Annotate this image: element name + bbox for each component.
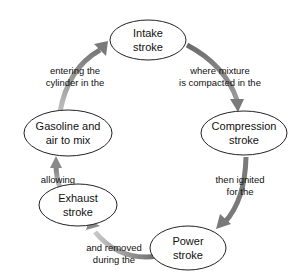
- svg-text:during the: during the: [93, 254, 135, 265]
- svg-text:Gasoline and: Gasoline and: [36, 120, 101, 132]
- svg-text:is compacted in the: is compacted in the: [179, 77, 261, 88]
- svg-text:Power: Power: [172, 235, 204, 247]
- svg-text:Exhaust: Exhaust: [58, 192, 98, 204]
- node-intake-stroke: Intake stroke: [110, 20, 186, 60]
- svg-text:stroke: stroke: [133, 41, 163, 53]
- node-exhaust-stroke: Exhaust stroke: [39, 184, 117, 226]
- node-power-stroke: Power stroke: [150, 226, 226, 270]
- svg-text:and removed: and removed: [86, 242, 141, 253]
- svg-text:allowing: allowing: [41, 174, 75, 185]
- edge-label-exhaust-gasoline: allowing: [41, 174, 75, 185]
- node-compression-stroke: Compression stroke: [201, 111, 287, 155]
- svg-text:stroke: stroke: [229, 134, 259, 146]
- svg-text:where mixture: where mixture: [189, 65, 250, 76]
- svg-text:Intake: Intake: [133, 27, 163, 39]
- svg-text:stroke: stroke: [63, 206, 93, 218]
- edge-label-gasoline-intake: entering the cylinder in the: [46, 65, 105, 88]
- edge-label-compression-power: then ignited for the: [215, 174, 264, 197]
- svg-text:cylinder in the: cylinder in the: [46, 77, 105, 88]
- svg-text:then ignited: then ignited: [215, 174, 264, 185]
- svg-text:Compression: Compression: [212, 120, 277, 132]
- edge-label-power-exhaust: and removed during the: [86, 242, 141, 265]
- svg-text:entering the: entering the: [50, 65, 100, 76]
- node-gasoline-air-mix: Gasoline and air to mix: [24, 110, 112, 156]
- svg-text:for the: for the: [227, 186, 254, 197]
- svg-text:air to mix: air to mix: [46, 134, 91, 146]
- edge-label-intake-compression: where mixture is compacted in the: [179, 65, 261, 88]
- engine-cycle-diagram: where mixture is compacted in the then i…: [0, 0, 288, 279]
- svg-text:stroke: stroke: [173, 249, 203, 261]
